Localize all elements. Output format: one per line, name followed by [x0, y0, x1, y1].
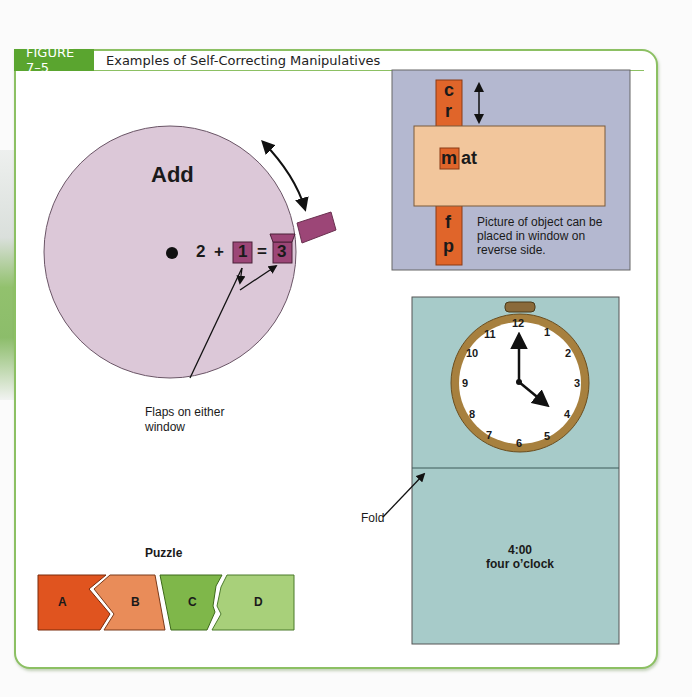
- add-title: Add: [151, 162, 194, 188]
- clock-number-3: 3: [574, 377, 580, 389]
- equation-equals: =: [257, 242, 267, 262]
- clock-number-5: 5: [544, 430, 550, 442]
- clock-number-9: 9: [462, 377, 468, 389]
- flaps-caption-line2: window: [145, 420, 185, 434]
- puzzle-title: Puzzle: [145, 546, 182, 560]
- equation-b: 1: [238, 242, 247, 262]
- flaps-caption-line1: Flaps on either: [145, 405, 224, 419]
- puzzle-label-b: B: [131, 595, 140, 609]
- clock-card: [383, 297, 619, 644]
- puzzle-piece-d: [212, 575, 294, 630]
- bottom-letter-1: f: [445, 212, 451, 233]
- clock-number-2: 2: [565, 347, 571, 359]
- word-ending: at: [461, 148, 477, 169]
- top-letter-1: c: [444, 80, 454, 101]
- equation-a: 2: [196, 242, 205, 262]
- clock-number-6: 6: [516, 437, 522, 449]
- clock-number-7: 7: [486, 429, 492, 441]
- equation-result: 3: [277, 242, 286, 262]
- clock-number-4: 4: [564, 408, 570, 420]
- clock-number-10: 10: [466, 347, 478, 359]
- slider-note-line3: reverse side.: [477, 243, 546, 257]
- puzzle-label-c: C: [188, 595, 197, 609]
- clock-number-12: 12: [512, 317, 524, 329]
- flap-lid: [270, 234, 295, 242]
- slider-note-line2: placed in window on: [477, 229, 585, 243]
- window-letter: m: [441, 148, 457, 169]
- wheel-tab: [297, 212, 336, 243]
- fold-label: Fold: [361, 511, 384, 525]
- puzzle-piece-a: [38, 575, 110, 630]
- top-letter-2: r: [445, 101, 452, 122]
- equation-plus: +: [214, 242, 224, 262]
- puzzle-label-d: D: [254, 595, 263, 609]
- clock-number-1: 1: [544, 326, 550, 338]
- wheel-center-pin: [166, 247, 178, 259]
- clock-crown: [505, 302, 535, 312]
- bottom-letter-2: p: [443, 236, 454, 257]
- puzzle-label-a: A: [58, 595, 67, 609]
- clock-number-11: 11: [484, 328, 496, 340]
- clock-number-8: 8: [469, 408, 475, 420]
- clock-time-words: four o’clock: [470, 557, 570, 571]
- clock-time: 4:00: [500, 543, 540, 557]
- slider-note-line1: Picture of object can be: [477, 215, 602, 229]
